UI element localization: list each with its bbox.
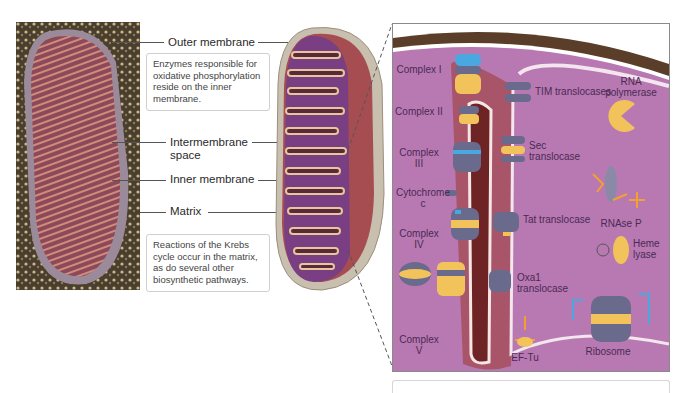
tat-translocase-icon xyxy=(493,212,519,236)
label-outer-membrane: Outer membrane xyxy=(168,36,255,49)
label-inner-membrane: Inner membrane xyxy=(170,173,254,186)
label-ef-tu: EF-Tu xyxy=(505,352,545,363)
label-cytochrome-c: Cytochrome c xyxy=(393,187,453,209)
rnase-p-icon xyxy=(593,166,645,208)
detail-panel: Complex I Complex II Complex III Cytochr… xyxy=(392,23,670,372)
complex-iii-icon xyxy=(453,142,481,172)
rna-polymerase-icon xyxy=(608,100,635,132)
label-complex-i: Complex I xyxy=(395,64,443,75)
label-rnase-p: RNAse P xyxy=(591,218,651,229)
leader-line xyxy=(208,212,280,213)
electron-micrograph xyxy=(16,22,140,290)
sec-translocase-icon xyxy=(501,136,525,162)
label-tat-translocase: Tat translocase xyxy=(523,214,593,225)
ribosome-icon xyxy=(573,294,649,342)
label-heme-lyase: Heme lyase xyxy=(633,238,667,260)
complex-i-icon xyxy=(455,54,481,94)
label-sec-translocase: Sec translocase xyxy=(529,140,599,162)
caption-box-edge xyxy=(392,380,670,393)
label-complex-v: Complex V xyxy=(395,334,443,356)
leader-line xyxy=(112,180,166,181)
complex-iv-icon xyxy=(451,208,479,240)
label-complex-ii: Complex II xyxy=(395,106,443,117)
label-oxa1-translocase: Oxa1 translocase xyxy=(517,272,587,294)
ef-tu-icon xyxy=(515,316,535,347)
leader-line xyxy=(112,42,164,43)
label-complex-iii: Complex III xyxy=(395,147,443,169)
label-complex-iv: Complex IV xyxy=(395,228,443,250)
tim-translocase-icon xyxy=(505,82,531,102)
leader-line xyxy=(140,212,166,213)
label-matrix: Matrix xyxy=(170,205,201,218)
note-oxidative-phosphorylation: Enzymes responsible for oxidative phosph… xyxy=(146,53,270,111)
label-ribosome: Ribosome xyxy=(573,346,643,357)
label-rna-polymerase: RNA polymerase xyxy=(599,76,663,98)
heme-lyase-icon xyxy=(597,236,629,264)
note-krebs-cycle: Reactions of the Krebs cycle occur in th… xyxy=(146,234,270,292)
zoom-indicator-lines xyxy=(340,20,400,370)
label-intermembrane-space: Intermembrane space xyxy=(170,136,250,162)
oxa1-translocase-icon xyxy=(489,270,511,292)
complex-v-icon xyxy=(399,262,465,296)
complex-ii-icon xyxy=(459,106,479,124)
leader-line xyxy=(112,142,166,143)
